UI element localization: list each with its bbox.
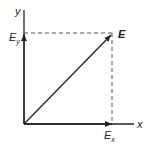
y-axis-label: y <box>14 5 22 17</box>
ey-label: Ey <box>9 31 20 46</box>
ex-label-sub: x <box>110 136 115 143</box>
ey-label-sub: y <box>15 38 20 46</box>
e-vector-arrow <box>24 35 111 124</box>
x-axis-label: x <box>136 118 143 130</box>
vector-label: E <box>118 28 126 40</box>
vector-diagram: y x E Ey Ex <box>0 0 148 147</box>
ex-label: Ex <box>104 129 115 143</box>
